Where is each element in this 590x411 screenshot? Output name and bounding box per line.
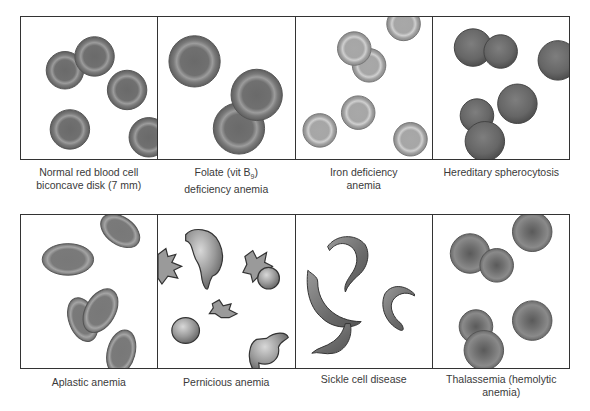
caption-text: Folate (vit B [195, 166, 251, 178]
caption-sickle-cell-disease: Sickle cell disease [295, 376, 433, 399]
panel-aplastic-anemia [21, 215, 158, 368]
caption-folate-deficiency: Folate (vit B9) deficiency anemia [158, 166, 296, 196]
elliptocyte-illustration [21, 215, 157, 368]
panel-hereditary-spherocytosis [433, 17, 569, 159]
spherocyte-illustration [433, 17, 569, 159]
panel-pernicious-anemia [158, 215, 295, 368]
caption-thalassemia: Thalassemia (hemolytic anemia) [433, 376, 571, 399]
caption-line: Hereditary spherocytosis [433, 166, 571, 179]
caption-line: Iron deficiency [295, 166, 433, 179]
caption-line: Aplastic anemia [20, 376, 158, 389]
caption-aplastic-anemia: Aplastic anemia [20, 376, 158, 399]
sickle-cell-illustration [296, 215, 432, 368]
top-row-captions: Normal red blood cell biconcave disk (7 … [20, 166, 570, 196]
caption-line: Folate (vit B9) [158, 166, 296, 183]
caption-normal-rbc: Normal red blood cell biconcave disk (7 … [20, 166, 158, 196]
macrocyte-illustration [158, 17, 294, 159]
normal-rbc-illustration [21, 17, 157, 159]
target-cell-illustration [433, 215, 569, 368]
caption-hereditary-spherocytosis: Hereditary spherocytosis [433, 166, 571, 196]
caption-line: anemia) [433, 386, 571, 399]
panel-sickle-cell-disease [296, 215, 433, 368]
panel-iron-deficiency [296, 17, 433, 159]
caption-line: anemia [295, 179, 433, 192]
panel-folate-deficiency [158, 17, 295, 159]
panel-thalassemia [433, 215, 569, 368]
caption-line: Thalassemia (hemolytic [433, 373, 571, 386]
panel-normal-rbc [21, 17, 158, 159]
top-row-panels [20, 16, 570, 160]
caption-pernicious-anemia: Pernicious anemia [158, 376, 296, 399]
caption-line: Sickle cell disease [295, 373, 433, 386]
caption-text: ) [254, 166, 258, 178]
poikilocyte-illustration [158, 215, 294, 368]
caption-iron-deficiency: Iron deficiency anemia [295, 166, 433, 196]
caption-line: deficiency anemia [158, 183, 296, 196]
caption-line: biconcave disk (7 mm) [20, 179, 158, 192]
bottom-row-panels [20, 214, 570, 369]
caption-line: Normal red blood cell [20, 166, 158, 179]
microcytic-hypochromic-illustration [296, 17, 432, 159]
bottom-row-captions: Aplastic anemia Pernicious anemia Sickle… [20, 376, 570, 399]
caption-line: Pernicious anemia [158, 376, 296, 389]
